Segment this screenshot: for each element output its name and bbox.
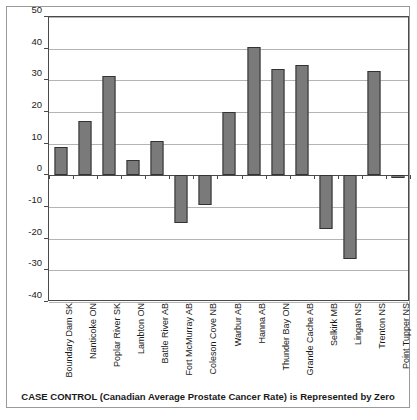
bar-slot <box>242 17 266 300</box>
bar[interactable] <box>295 65 308 176</box>
x-tick-mark <box>73 175 74 179</box>
bar[interactable] <box>271 69 284 175</box>
bar-slot <box>338 17 362 300</box>
x-axis-label: Poplar River SK <box>112 303 122 389</box>
bar[interactable] <box>151 141 164 176</box>
bar-slot <box>217 17 241 300</box>
x-axis-caption: CASE CONTROL (Canadian Average Prostate … <box>8 391 408 402</box>
x-axis-label: Lambton ON <box>136 303 146 389</box>
x-axis-label: Nanticoke ON <box>88 303 98 389</box>
bar-slot <box>290 17 314 300</box>
x-tick-mark <box>266 175 267 179</box>
y-tick-label: 30 <box>6 67 42 78</box>
x-axis-label: Coleson Cove NB <box>208 303 218 389</box>
x-axis-label: Battle River AB <box>160 303 170 389</box>
x-tick-mark <box>97 175 98 179</box>
bar[interactable] <box>55 147 68 176</box>
bar[interactable] <box>319 175 332 229</box>
bar[interactable] <box>343 175 356 259</box>
y-tick-mark <box>44 301 48 302</box>
bar[interactable] <box>391 175 404 178</box>
bar[interactable] <box>103 76 116 176</box>
bar-slot <box>49 17 73 300</box>
bar-slot <box>97 17 121 300</box>
y-tick-mark <box>44 174 48 175</box>
bar-slot <box>314 17 338 300</box>
x-tick-mark <box>290 175 291 179</box>
y-tick-mark <box>44 269 48 270</box>
y-tick-label: 20 <box>6 99 42 110</box>
bar-slot <box>145 17 169 300</box>
bar-series <box>49 17 408 300</box>
x-axis-label: Fort McMurray AB <box>184 303 194 389</box>
x-axis-label: Grande Cache AB <box>305 303 315 389</box>
plot-area <box>48 16 409 301</box>
y-tick-label: -30 <box>6 257 42 268</box>
x-tick-mark <box>362 175 363 179</box>
y-tick-label: 10 <box>6 131 42 142</box>
bar-slot <box>266 17 290 300</box>
x-tick-mark <box>121 175 122 179</box>
bar-slot <box>362 17 386 300</box>
y-tick-label: 40 <box>6 36 42 47</box>
x-axis-label: Lingan NS <box>353 303 363 389</box>
bar[interactable] <box>247 47 260 175</box>
y-tick-mark <box>44 111 48 112</box>
bar[interactable] <box>79 121 92 176</box>
bar[interactable] <box>199 175 212 205</box>
y-tick-label: -40 <box>6 289 42 300</box>
y-tick-mark <box>44 238 48 239</box>
x-axis-label: Trenton NS <box>377 303 387 389</box>
y-tick-mark <box>44 48 48 49</box>
x-tick-mark <box>314 175 315 179</box>
bar-slot <box>386 17 410 300</box>
y-tick-mark <box>44 16 48 17</box>
bar[interactable] <box>367 71 380 176</box>
chart-figure: People/100,000 Varrying from CASE CONTRO… <box>0 0 417 420</box>
x-axis-labels: Boundary Dam SKNanticoke ONPoplar River … <box>48 303 409 388</box>
x-tick-mark <box>386 175 387 179</box>
x-axis-label: Selkirk MB <box>329 303 339 389</box>
x-axis-label: Point Tupper NS <box>401 303 411 389</box>
bar-slot <box>193 17 217 300</box>
bar[interactable] <box>127 160 140 176</box>
x-tick-mark <box>169 175 170 179</box>
bar-slot <box>169 17 193 300</box>
x-axis-label: Hanna AB <box>257 303 267 389</box>
bar[interactable] <box>223 112 236 175</box>
x-tick-mark <box>49 175 50 179</box>
x-axis-label: Boundary Dam SK <box>64 303 74 389</box>
x-axis-label: Warbur AB <box>233 303 243 389</box>
y-tick-mark <box>44 206 48 207</box>
y-tick-label: -20 <box>6 226 42 237</box>
bar[interactable] <box>175 175 188 223</box>
x-axis-label: Thunder Bay ON <box>281 303 291 389</box>
x-tick-mark <box>410 175 411 179</box>
x-tick-mark <box>338 175 339 179</box>
x-tick-mark <box>145 175 146 179</box>
y-tick-label: 50 <box>6 4 42 15</box>
x-tick-mark <box>193 175 194 179</box>
x-tick-mark <box>242 175 243 179</box>
y-tick-label: -10 <box>6 194 42 205</box>
y-tick-mark <box>44 143 48 144</box>
bar-slot <box>73 17 97 300</box>
y-tick-label: 0 <box>6 162 42 173</box>
x-tick-mark <box>217 175 218 179</box>
y-tick-mark <box>44 79 48 80</box>
bar-slot <box>121 17 145 300</box>
